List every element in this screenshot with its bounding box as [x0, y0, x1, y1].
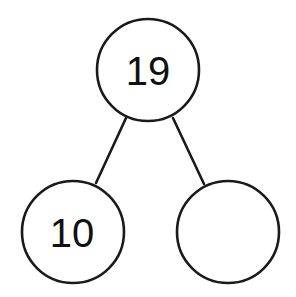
- node-part-left-label: 10: [50, 211, 95, 255]
- node-part-right: [177, 181, 279, 283]
- node-part-left: 10: [22, 181, 124, 283]
- edge-whole-to-right-part: [173, 118, 204, 184]
- node-whole-label: 19: [126, 49, 171, 93]
- edge-whole-to-left-part: [96, 118, 126, 183]
- node-whole: 19: [97, 19, 199, 121]
- number-bond-diagram: 19 10: [0, 0, 296, 297]
- node-part-right-circle: [177, 181, 279, 283]
